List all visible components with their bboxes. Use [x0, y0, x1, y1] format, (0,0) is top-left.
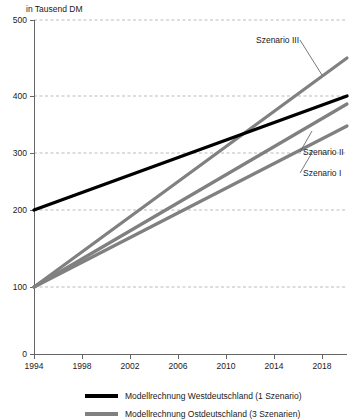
y-tick-label-0: 0 — [22, 349, 27, 359]
legend-label-westdeutschland: Modellrechnung Westdeutschland (1 Szenar… — [125, 391, 302, 401]
y-tick-label-100: 100 — [13, 282, 27, 292]
x-tick-label-2010: 2010 — [217, 361, 236, 371]
x-tick-label-2002: 2002 — [121, 361, 140, 371]
annotation-szenario-ii: Szenario II — [303, 147, 344, 157]
chart-svg: in Tausend DM 500 400 300 — [0, 0, 355, 420]
chart-container: in Tausend DM 500 400 300 — [0, 0, 355, 420]
x-tick-label-2018: 2018 — [313, 361, 332, 371]
x-tick-label-1994: 1994 — [25, 361, 44, 371]
x-tick-label-2006: 2006 — [169, 361, 188, 371]
x-tick-label-1998: 1998 — [73, 361, 92, 371]
y-axis-caption: in Tausend DM — [26, 4, 83, 14]
y-tick-label-300: 300 — [13, 148, 27, 158]
annotation-szenario-i: Szenario I — [303, 168, 341, 178]
x-tick-label-2014: 2014 — [265, 361, 284, 371]
y-tick-label-500: 500 — [13, 15, 27, 25]
annotation-szenario-iii: Szenario III — [256, 35, 299, 45]
y-tick-label-400: 400 — [13, 91, 27, 101]
y-tick-label-200: 200 — [13, 205, 27, 215]
legend-label-ostdeutschland: Modellrechnung Ostdeutschland (3 Szenari… — [125, 409, 300, 419]
